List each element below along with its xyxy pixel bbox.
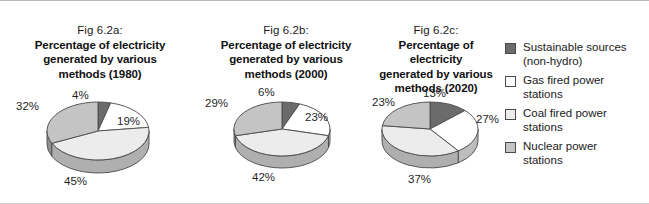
chart-panel-a: Fig 6.2a: Percentage of electricity gene… (0, 1, 200, 204)
slice-label-left-a: 32% (16, 100, 39, 112)
legend-label-gas-line1: Gas fired power (523, 74, 604, 86)
slice-label-left-c: 23% (372, 96, 395, 108)
legend-item-nuclear: Nuclear power stations (505, 140, 649, 167)
pie-chart-c (378, 97, 482, 171)
legend-label-coal: Coal fired power stations (523, 107, 607, 134)
figure-number-b: Fig 6.2b: (200, 23, 372, 38)
figure-title-line3-b: methods (2000) (200, 67, 372, 82)
chart-caption-c: Fig 6.2c: Percentage of electricity gene… (372, 23, 500, 96)
figure-title-line1-a: Percentage of electricity (0, 38, 200, 53)
slice-label-bottom-c: 37% (408, 173, 431, 185)
figure-title-line1-b: Percentage of electricity (200, 38, 372, 53)
legend-label-nuclear-line1: Nuclear power (523, 140, 597, 152)
figure-number-c: Fig 6.2c: (372, 23, 500, 38)
slice-label-top-a: 4% (72, 89, 89, 101)
figure-title-line2-a: generated by various (0, 52, 200, 67)
legend-swatch-gas-icon (505, 76, 516, 87)
slice-label-top-c: 13% (423, 87, 446, 99)
legend-item-coal: Coal fired power stations (505, 107, 649, 134)
legend-item-gas: Gas fired power stations (505, 74, 649, 101)
legend-label-sustainable-line2: (non-hydro) (523, 55, 627, 69)
slice-label-right-a: 19% (117, 115, 140, 127)
slice-label-bottom-a: 45% (64, 175, 87, 187)
legend-swatch-sustainable-icon (505, 43, 516, 54)
pie-chart-b (230, 97, 334, 171)
slice-label-right-b: 23% (305, 111, 328, 123)
legend-label-coal-line1: Coal fired power (523, 107, 607, 119)
legend-label-gas: Gas fired power stations (523, 74, 604, 101)
legend-item-sustainable: Sustainable sources (non-hydro) (505, 41, 649, 68)
legend-label-nuclear-line2: stations (523, 154, 597, 168)
legend-label-sustainable-line1: Sustainable sources (523, 41, 627, 53)
figure-title-line2-c: generated by various (372, 67, 500, 82)
legend-label-coal-line2: stations (523, 121, 607, 135)
slice-label-left-b: 29% (205, 97, 228, 109)
figure-title-line1-c: Percentage of electricity (372, 38, 500, 67)
figure-title-line3-a: methods (1980) (0, 67, 200, 82)
pie-svg-b (230, 97, 334, 171)
chart-panel-c: Fig 6.2c: Percentage of electricity gene… (372, 1, 500, 204)
slice-label-right-c: 27% (476, 113, 499, 125)
figure-number-a: Fig 6.2a: (0, 23, 200, 38)
legend-label-sustainable: Sustainable sources (non-hydro) (523, 41, 627, 68)
legend-label-nuclear: Nuclear power stations (523, 140, 597, 167)
slice-label-bottom-b: 42% (252, 171, 275, 183)
legend: Sustainable sources (non-hydro) Gas fire… (505, 41, 649, 167)
figure-title-line2-b: generated by various (200, 52, 372, 67)
chart-caption-a: Fig 6.2a: Percentage of electricity gene… (0, 23, 200, 81)
figure-container: Fig 6.2a: Percentage of electricity gene… (0, 0, 649, 204)
chart-panel-b: Fig 6.2b: Percentage of electricity gene… (200, 1, 372, 204)
legend-swatch-coal-icon (505, 109, 516, 120)
pie-svg-a (42, 97, 154, 175)
chart-caption-b: Fig 6.2b: Percentage of electricity gene… (200, 23, 372, 81)
legend-label-gas-line2: stations (523, 88, 604, 102)
slice-label-top-b: 6% (258, 86, 275, 98)
legend-swatch-nuclear-icon (505, 142, 516, 153)
pie-svg-c (378, 97, 482, 171)
pie-chart-a (42, 97, 154, 175)
